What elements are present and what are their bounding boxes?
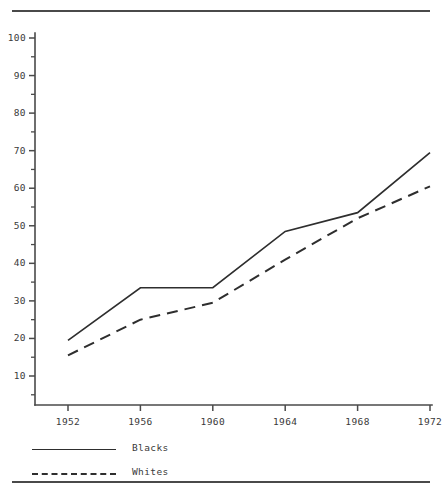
y-tick-label-90: 90 (0, 71, 26, 81)
y-tick-label-30: 30 (0, 296, 26, 306)
figure: 102030405060708090100 195219561960196419… (0, 0, 443, 494)
x-tick-label-1960: 1960 (201, 417, 225, 427)
chart-legend: Blacks Whites (32, 438, 272, 486)
x-tick-label-1964: 1964 (273, 417, 297, 427)
y-tick-label-70: 70 (0, 146, 26, 156)
legend-item-whites: Whites (32, 462, 272, 486)
x-tick-label-1972: 1972 (418, 417, 442, 427)
y-tick-label-20: 20 (0, 334, 26, 344)
legend-label-blacks: Blacks (132, 442, 169, 453)
series-whites (68, 186, 430, 355)
y-tick-label-80: 80 (0, 108, 26, 118)
y-tick-label-40: 40 (0, 259, 26, 269)
y-tick-label-10: 10 (0, 371, 26, 381)
y-tick-label-50: 50 (0, 221, 26, 231)
legend-item-blacks: Blacks (32, 438, 272, 462)
y-tick-label-60: 60 (0, 183, 26, 193)
legend-label-whites: Whites (132, 466, 169, 477)
axis-ticks (29, 38, 430, 411)
axes (35, 33, 432, 405)
x-tick-label-1968: 1968 (345, 417, 369, 427)
x-tick-label-1952: 1952 (56, 417, 80, 427)
legend-swatch-blacks (32, 449, 116, 450)
data-series (68, 153, 430, 356)
legend-swatch-whites (32, 473, 116, 475)
series-blacks (68, 153, 430, 341)
y-tick-label-100: 100 (0, 33, 26, 43)
x-tick-label-1956: 1956 (128, 417, 152, 427)
